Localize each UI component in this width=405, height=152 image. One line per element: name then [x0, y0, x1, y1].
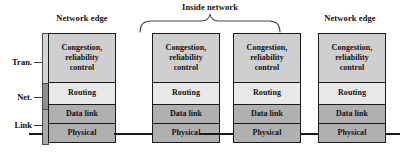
layer-box-physical: Physical	[318, 124, 386, 143]
physical-link-stub-left	[29, 133, 43, 135]
physical-link-router-2-to-host-right	[300, 133, 319, 135]
layer-box-transport: Congestion, reliability control	[318, 33, 386, 83]
protocol-stack-router-1: Congestion, reliability control Routing …	[152, 33, 220, 143]
protocol-stack-host-right: Congestion, reliability control Routing …	[318, 33, 386, 143]
caption-network-edge-left: Network edge	[48, 13, 116, 23]
protocol-stack-diagram: Network edge Inside network Network edge…	[0, 0, 405, 152]
layer-box-transport: Congestion, reliability control	[233, 33, 301, 83]
layer-box-network: Routing	[152, 83, 220, 105]
layer-box-network: Routing	[233, 83, 301, 105]
caption-inside-network: Inside network	[160, 2, 260, 12]
layer-label-transport: Tran.	[2, 57, 32, 67]
caption-network-edge-right: Network edge	[316, 13, 384, 23]
physical-link-stub-right	[386, 133, 400, 135]
layer-box-physical: Physical	[233, 124, 301, 143]
layer-box-network: Routing	[318, 83, 386, 105]
layer-box-datalink: Data link	[152, 105, 220, 124]
protocol-stack-host-left: Congestion, reliability control Routing …	[48, 33, 116, 143]
layer-box-datalink: Data link	[48, 105, 116, 124]
inside-network-brace-icon	[139, 13, 281, 33]
layer-box-transport: Congestion, reliability control	[152, 33, 220, 83]
physical-link-host-left-to-router-1	[114, 133, 153, 135]
physical-link-router-1-to-router-2	[199, 133, 234, 135]
layer-box-physical: Physical	[48, 124, 116, 143]
protocol-stack-router-2: Congestion, reliability control Routing …	[233, 33, 301, 143]
layer-label-link: Link	[2, 120, 32, 130]
layer-label-network: Net.	[2, 92, 32, 102]
layer-box-transport: Congestion, reliability control	[48, 33, 116, 83]
layer-box-network: Routing	[48, 83, 116, 105]
layer-box-datalink: Data link	[318, 105, 386, 124]
layer-box-datalink: Data link	[233, 105, 301, 124]
